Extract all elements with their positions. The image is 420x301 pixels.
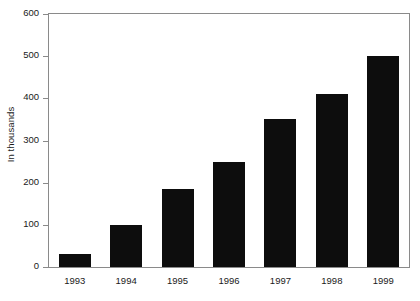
- bar-1994[interactable]: [110, 14, 142, 267]
- x-axis-tick-label: 1993: [49, 275, 100, 286]
- y-axis-tick-label: 100: [23, 218, 39, 229]
- bar-rect: [264, 119, 296, 267]
- y-axis-tick-mark: [43, 56, 48, 57]
- y-axis-tick-mark: [43, 225, 48, 226]
- bar-1998[interactable]: [316, 14, 348, 267]
- bar-rect: [110, 225, 142, 267]
- x-axis-tick-label: 1996: [203, 275, 254, 286]
- y-axis-tick-mark: [43, 267, 48, 268]
- y-axis-title: In thousands: [0, 0, 22, 268]
- y-axis-tick-mark: [43, 98, 48, 99]
- y-axis-tick-mark: [43, 183, 48, 184]
- x-axis-tick-label: 1994: [100, 275, 151, 286]
- y-axis-tick-label: 200: [23, 176, 39, 187]
- y-axis-tick-label: 400: [23, 91, 39, 102]
- bar-1997[interactable]: [264, 14, 296, 267]
- y-axis-title-label: In thousands: [6, 106, 17, 162]
- y-axis-tick-mark: [43, 141, 48, 142]
- y-axis-tick-label: 300: [23, 134, 39, 145]
- x-axis-tick-label: 1999: [358, 275, 409, 286]
- x-axis-tick-label: 1998: [306, 275, 357, 286]
- bar-rect: [367, 56, 399, 267]
- x-axis-tick-label: 1997: [255, 275, 306, 286]
- bar-rect: [59, 254, 91, 267]
- y-axis-tick-mark: [43, 14, 48, 15]
- y-axis-tick-label: 600: [23, 7, 39, 18]
- y-axis-tick-label: 0: [34, 260, 39, 271]
- x-axis-tick-label: 1995: [152, 275, 203, 286]
- bar-1996[interactable]: [213, 14, 245, 267]
- bar-rect: [316, 94, 348, 267]
- bars-group: [49, 14, 409, 267]
- bar-rect: [213, 162, 245, 267]
- bar-chart: In thousands 0100200300400500600 1993199…: [0, 0, 420, 301]
- bar-1993[interactable]: [59, 14, 91, 267]
- y-axis-tick-label: 500: [23, 49, 39, 60]
- bar-rect: [162, 189, 194, 267]
- bar-1999[interactable]: [367, 14, 399, 267]
- bar-1995[interactable]: [162, 14, 194, 267]
